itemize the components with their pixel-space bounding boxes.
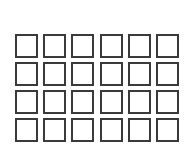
grid-cell: [128, 62, 151, 86]
grid-cell: [71, 90, 94, 114]
grid-cell: [156, 34, 179, 58]
grid-cell: [15, 34, 38, 58]
grid-cell: [15, 118, 38, 142]
grid-cell: [43, 90, 66, 114]
grid-cell: [43, 118, 66, 142]
grid-cell: [128, 34, 151, 58]
grid-cell: [71, 34, 94, 58]
canvas: [0, 0, 196, 158]
grid-cell: [100, 90, 123, 114]
grid-cell: [15, 90, 38, 114]
grid-cell: [156, 62, 179, 86]
grid-cell: [156, 90, 179, 114]
grid-cell: [100, 118, 123, 142]
box-grid: [15, 34, 179, 142]
grid-cell: [100, 62, 123, 86]
grid-cell: [128, 118, 151, 142]
grid-cell: [43, 34, 66, 58]
grid-cell: [156, 118, 179, 142]
grid-cell: [128, 90, 151, 114]
grid-cell: [71, 118, 94, 142]
grid-cell: [15, 62, 38, 86]
grid-cell: [71, 62, 94, 86]
grid-cell: [43, 62, 66, 86]
grid-cell: [100, 34, 123, 58]
